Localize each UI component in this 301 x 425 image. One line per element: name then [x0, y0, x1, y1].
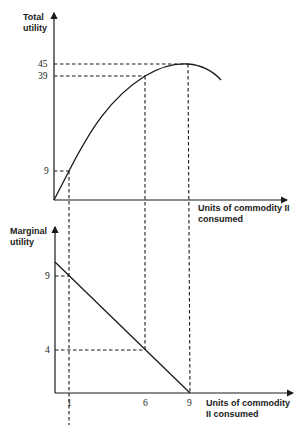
marginal-utility-chart: Marginal utility 9 4 1 6 9 Units of comm…	[10, 226, 293, 419]
bottom-ytick-4: 4	[45, 345, 50, 355]
bottom-xtick-1: 1	[67, 398, 72, 408]
bottom-xtick-6: 6	[143, 398, 148, 408]
bottom-xlabel-line2: II consumed	[206, 409, 259, 419]
top-ytick-45: 45	[38, 59, 48, 69]
bottom-ylabel-line2: utility	[10, 237, 34, 247]
bottom-ytick-9: 9	[45, 271, 50, 281]
total-utility-curve	[54, 64, 221, 200]
top-ytick-9: 9	[44, 166, 49, 176]
top-ylabel-line1: Total	[23, 12, 44, 22]
top-xlabel-line1: Units of commodity II	[198, 203, 290, 213]
total-utility-chart: Total utility 45 39 9 Units of commodity…	[23, 12, 290, 425]
marginal-utility-line	[55, 262, 190, 393]
bottom-ylabel-line1: Marginal	[10, 226, 47, 236]
top-xlabel-line2: consumed	[198, 214, 243, 224]
top-ytick-39: 39	[38, 71, 48, 81]
bottom-xlabel-line1: Units of commodity	[206, 398, 290, 408]
top-guides	[54, 64, 190, 425]
bottom-xtick-9: 9	[187, 398, 192, 408]
top-ylabel-line2: utility	[23, 23, 47, 33]
utility-charts: Total utility 45 39 9 Units of commodity…	[0, 0, 301, 425]
